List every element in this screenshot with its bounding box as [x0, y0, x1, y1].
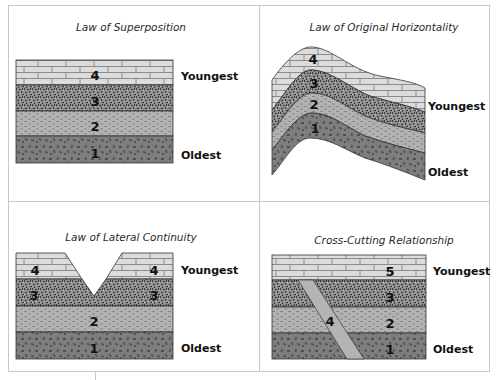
panel-title: Law of Lateral Continuity	[65, 231, 197, 243]
panel-title: Cross-Cutting Relationship	[314, 234, 454, 246]
layer-number: 5	[385, 264, 394, 279]
layer-number: 2	[385, 316, 394, 331]
layer-number: 3	[385, 290, 394, 305]
youngest-label: Youngest	[427, 100, 485, 113]
oldest-label: Oldest	[181, 149, 221, 162]
layer-number: 3	[149, 288, 158, 303]
oldest-label: Oldest	[433, 343, 473, 356]
folded-strata	[272, 47, 425, 180]
youngest-label: Youngest	[432, 265, 490, 278]
intrusion-number: 4	[325, 314, 334, 329]
layer-number: 4	[149, 263, 158, 278]
panel-original-horizontality: Law of Original Horizontality 4 3 2 1 Yo…	[272, 21, 485, 180]
layer-number: 1	[90, 146, 99, 161]
layer-number: 1	[385, 342, 394, 357]
panel-cross-cutting: Cross-Cutting Relationship 5 3 2 1 4 You…	[272, 234, 490, 359]
panel-title: Law of Original Horizontality	[310, 21, 460, 33]
geologic-principles-figure: Law of Superposition 4 3 2 1 Youngest Ol…	[0, 0, 496, 380]
layer-number: 3	[90, 94, 99, 109]
panel-lateral-continuity: Law of Lateral Continuity 4 4 3 3 2 1 Yo…	[16, 231, 238, 359]
layer-number: 1	[89, 341, 98, 356]
layer-number: 2	[309, 97, 318, 112]
layer-number: 2	[90, 119, 99, 134]
layer-number: 4	[30, 263, 39, 278]
panel-superposition: Law of Superposition 4 3 2 1 Youngest Ol…	[16, 21, 238, 163]
layer-number: 2	[89, 314, 98, 329]
oldest-label: Oldest	[428, 166, 468, 179]
youngest-label: Youngest	[180, 264, 238, 277]
youngest-label: Youngest	[180, 70, 238, 83]
layer-number: 4	[308, 52, 317, 67]
layer-number: 4	[90, 68, 99, 83]
panel-title: Law of Superposition	[76, 21, 186, 33]
intruded-strata	[272, 255, 426, 359]
oldest-label: Oldest	[181, 342, 221, 355]
layer-number: 3	[29, 288, 38, 303]
layer-number: 1	[310, 121, 319, 136]
layer-number: 3	[309, 76, 318, 91]
